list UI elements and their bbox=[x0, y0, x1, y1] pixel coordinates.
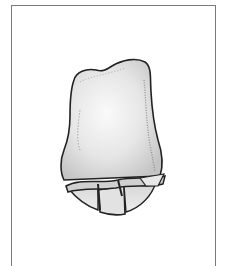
base-fragments bbox=[66, 174, 165, 215]
